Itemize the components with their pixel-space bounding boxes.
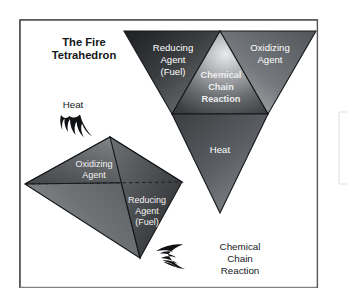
tetrahedron-right-face-label-line2: Agent [135,206,159,216]
pyramid-right-face-label-line2: Agent [257,54,282,65]
pyramid-bottom-face-label: Heat [210,144,231,155]
scan-artifact-bracket [339,112,347,184]
page-title-line1: The Fire [62,36,106,48]
tetrahedron-left-face-label-line2: Agent [82,170,106,180]
pyramid-left-face-label-line3: (Fuel) [160,66,185,77]
flame-arrow-heat-icon [60,115,92,138]
heat-callout: Heat [60,99,92,138]
heat-callout-label: Heat [63,99,84,110]
page-title: The Fire Tetrahedron [52,36,117,61]
tetrahedron-right-face-label-line1: Reducing [128,195,166,205]
pyramid-left-face-label-line2: Agent [160,54,185,65]
pyramid-center-face-label-line2: Chain [208,82,234,92]
pyramid-left-face-label-line1: Reducing [153,42,194,53]
chain-reaction-callout-line1: Chemical [220,241,261,252]
chain-reaction-callout: Chemical Chain Reaction [156,241,260,276]
tetrahedron-right-face-label-line3: (Fuel) [135,217,159,227]
pyramid-bottom-face [172,114,268,213]
pyramid-right-face-label-line1: Oxidizing [250,42,289,53]
tetrahedron-left-face-label-line1: Oxidizing [75,159,112,169]
fire-tetrahedron-diagram: The Fire Tetrahedron Reducing Agent (Fue… [0,0,354,303]
figure-canvas: The Fire Tetrahedron Reducing Agent (Fue… [0,0,354,303]
pyramid-center-face-label-line1: Chemical [201,70,242,80]
chain-reaction-callout-line2: Chain [227,253,253,264]
page-title-line2: Tetrahedron [52,49,117,61]
chain-reaction-callout-line3: Reaction [221,265,260,276]
flame-arrow-chain-reaction-icon [156,244,185,269]
pyramid-center-face-label-line3: Reaction [202,94,241,104]
pyramid-bottom-face-label-line1: Heat [210,144,231,155]
tetrahedron: Oxidizing Agent Reducing Agent (Fuel) [25,137,182,258]
